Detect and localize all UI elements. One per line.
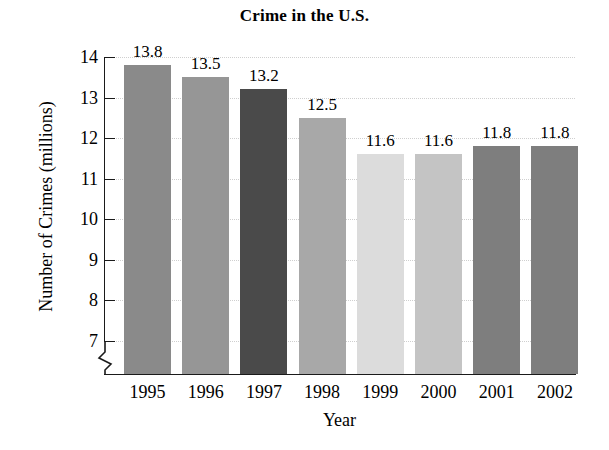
y-tick-label: 14 <box>58 48 98 66</box>
y-tick-label: 10 <box>58 210 98 228</box>
y-tick-mark <box>104 219 115 220</box>
y-tick-label: 12 <box>58 129 98 147</box>
bar-value-label: 11.8 <box>520 124 589 141</box>
axis-break-icon <box>96 341 114 375</box>
y-axis-title: Number of Crimes (millions) <box>36 57 57 357</box>
bar <box>357 154 404 374</box>
bar <box>124 65 171 374</box>
y-tick-label: 11 <box>58 170 98 188</box>
y-tick-mark <box>104 179 115 180</box>
bar-value-label: 13.2 <box>229 67 298 84</box>
bar-chart-figure: Crime in the U.S. Number of Crimes (mill… <box>0 0 609 450</box>
y-tick-mark <box>104 138 115 139</box>
y-tick-label: 8 <box>58 291 98 309</box>
bar <box>299 118 346 374</box>
y-tick-label: 9 <box>58 251 98 269</box>
bar <box>415 154 462 374</box>
y-tick-mark <box>104 98 115 99</box>
bar <box>182 77 229 374</box>
bar <box>531 146 578 374</box>
y-tick-mark <box>104 300 115 301</box>
y-tick-label: 13 <box>58 89 98 107</box>
y-tick-label: 7 <box>58 332 98 350</box>
y-tick-mark <box>104 341 115 342</box>
y-axis-line <box>104 57 105 341</box>
x-tick-label: 2002 <box>520 382 589 402</box>
y-tick-mark <box>104 260 115 261</box>
bar <box>473 146 520 374</box>
chart-title: Crime in the U.S. <box>0 6 609 26</box>
x-axis-title: Year <box>104 410 575 431</box>
bar-value-label: 12.5 <box>288 96 357 113</box>
x-axis-line <box>104 374 576 375</box>
bar <box>240 89 287 374</box>
